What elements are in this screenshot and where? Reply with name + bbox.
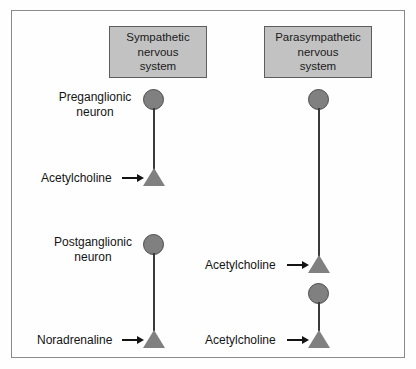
soma-para-preganglionic bbox=[308, 89, 329, 110]
terminal-symp-postganglionic bbox=[143, 330, 165, 348]
label-acetylcholine-symp-preganglionic: Acetylcholine bbox=[41, 171, 112, 186]
header-parasympathetic-line1: Parasympathetic bbox=[275, 30, 361, 45]
terminal-para-postganglionic bbox=[308, 330, 330, 348]
header-sympathetic-line1: Sympathetic bbox=[126, 30, 189, 45]
header-box-parasympathetic: Parasympathetic nervous system bbox=[264, 26, 372, 78]
header-sympathetic-line3: system bbox=[126, 59, 189, 74]
arrow-acetylcholine-para-preganglionic bbox=[287, 260, 309, 270]
axon-para-preganglionic bbox=[318, 108, 320, 257]
label-postganglionic-line1: Postganglionic bbox=[37, 235, 149, 250]
arrow-noradrenaline-symp-postganglionic bbox=[122, 335, 144, 345]
arrow-acetylcholine-symp-preganglionic bbox=[122, 173, 144, 183]
label-preganglionic-line2: neuron bbox=[41, 105, 149, 120]
label-preganglionic-line1: Preganglionic bbox=[41, 90, 149, 105]
diagram-frame: Sympathetic nervous system Parasympathet… bbox=[11, 10, 405, 358]
header-box-sympathetic: Sympathetic nervous system bbox=[109, 26, 207, 78]
axon-para-postganglionic bbox=[318, 302, 320, 331]
axon-symp-postganglionic bbox=[153, 253, 155, 331]
axon-symp-preganglionic bbox=[153, 108, 155, 170]
terminal-symp-preganglionic bbox=[143, 168, 165, 186]
header-parasympathetic-line2: nervous bbox=[275, 45, 361, 60]
label-postganglionic-line2: neuron bbox=[37, 250, 149, 265]
soma-symp-postganglionic bbox=[143, 234, 164, 255]
label-preganglionic-neuron: Preganglionic neuron bbox=[41, 90, 149, 119]
arrow-acetylcholine-para-postganglionic bbox=[287, 335, 309, 345]
label-acetylcholine-para-preganglionic: Acetylcholine bbox=[205, 258, 276, 273]
label-postganglionic-neuron: Postganglionic neuron bbox=[37, 235, 149, 264]
label-noradrenaline-symp-postganglionic: Noradrenaline bbox=[37, 333, 112, 348]
soma-para-postganglionic bbox=[308, 283, 329, 304]
soma-symp-preganglionic bbox=[143, 89, 164, 110]
diagram-canvas: Sympathetic nervous system Parasympathet… bbox=[0, 0, 416, 369]
label-acetylcholine-para-postganglionic: Acetylcholine bbox=[205, 333, 276, 348]
header-sympathetic-line2: nervous bbox=[126, 45, 189, 60]
header-parasympathetic-line3: system bbox=[275, 59, 361, 74]
terminal-para-preganglionic bbox=[308, 255, 330, 273]
